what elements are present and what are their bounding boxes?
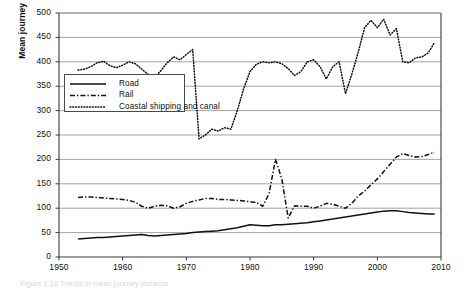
x-tick-2010: 2010 [421,262,461,272]
chart-legend: RoadRailCoastal shipping and canal [64,74,185,112]
legend-label-coastal-shipping-and-canal: Coastal shipping and canal [119,102,220,111]
series-line-road [78,211,435,239]
legend-label-road: Road [119,79,139,88]
y-tick-450: 450 [23,31,51,41]
y-tick-100: 100 [23,202,51,212]
chart-plot-area [0,0,470,288]
y-tick-400: 400 [23,56,51,66]
y-tick-150: 150 [23,178,51,188]
y-tick-300: 300 [23,105,51,115]
chart-figure: Mean journey distance (kilometres) 05010… [0,0,470,288]
y-tick-500: 500 [23,7,51,17]
x-tick-1990: 1990 [294,262,334,272]
x-tick-2000: 2000 [357,262,397,272]
x-tick-1980: 1980 [230,262,270,272]
x-tick-1960: 1960 [103,262,143,272]
figure-caption: Figure 1.10 Trends in mean journey dista… [20,279,168,288]
x-tick-1970: 1970 [166,262,206,272]
y-tick-50: 50 [23,227,51,237]
y-tick-250: 250 [23,129,51,139]
legend-label-rail: Rail [119,90,134,99]
x-tick-1950: 1950 [39,262,79,272]
y-tick-200: 200 [23,153,51,163]
y-tick-0: 0 [23,251,51,261]
y-tick-350: 350 [23,80,51,90]
